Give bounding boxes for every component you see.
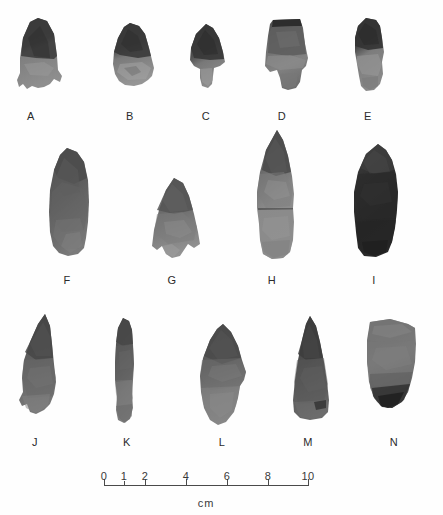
artifact-label-e: E bbox=[358, 110, 378, 122]
artifact-label-b: B bbox=[120, 110, 140, 122]
artifact-label-m: M bbox=[298, 436, 318, 448]
artifact-d bbox=[260, 18, 312, 94]
artifact-a bbox=[14, 18, 66, 96]
artifact-j bbox=[14, 314, 62, 424]
artifact-label-d: D bbox=[272, 110, 292, 122]
artifact-c bbox=[186, 24, 230, 94]
artifact-e bbox=[348, 18, 392, 96]
scale-bar-line bbox=[104, 485, 309, 486]
artifact-label-f: F bbox=[57, 274, 77, 286]
scale-unit-label: cm bbox=[186, 497, 226, 509]
artifact-label-g: G bbox=[162, 274, 182, 286]
scale-label-10: 10 bbox=[297, 470, 319, 482]
scale-label-8: 8 bbox=[257, 470, 279, 482]
artifact-l bbox=[194, 324, 250, 428]
artifact-h bbox=[250, 130, 300, 262]
artifact-label-l: L bbox=[212, 436, 232, 448]
artifact-m bbox=[286, 316, 334, 426]
artifact-label-n: N bbox=[384, 436, 404, 448]
artifact-g bbox=[148, 178, 202, 264]
artifact-k bbox=[110, 318, 138, 426]
artifact-label-k: K bbox=[117, 436, 137, 448]
artifact-i bbox=[344, 144, 402, 262]
artifact-plate-figure: A B bbox=[0, 0, 443, 515]
scale-label-2: 2 bbox=[134, 470, 156, 482]
artifact-label-c: C bbox=[196, 110, 216, 122]
scale-label-1: 1 bbox=[113, 470, 135, 482]
artifact-label-h: H bbox=[262, 274, 282, 286]
artifact-label-a: A bbox=[21, 110, 41, 122]
scale-bar bbox=[104, 485, 309, 487]
artifact-label-i: I bbox=[364, 274, 384, 286]
scale-label-4: 4 bbox=[175, 470, 197, 482]
artifact-n bbox=[360, 318, 420, 420]
artifact-b bbox=[108, 22, 158, 94]
scale-label-6: 6 bbox=[216, 470, 238, 482]
scale-label-0: 0 bbox=[93, 470, 115, 482]
artifact-label-j: J bbox=[25, 436, 45, 448]
artifact-f bbox=[44, 148, 94, 260]
